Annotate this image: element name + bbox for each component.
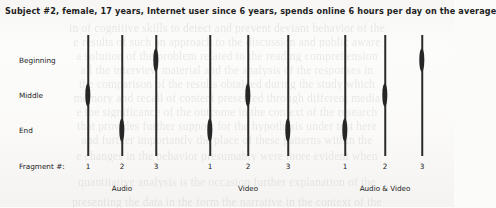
data-marker [153, 49, 158, 72]
fragment-number-label: 2 [246, 162, 251, 171]
group-label-video: Video [238, 184, 258, 193]
data-marker [245, 84, 250, 107]
y-axis-label-middle: Middle [19, 91, 43, 100]
data-marker [382, 84, 387, 107]
data-marker [85, 84, 90, 107]
fragment-number-label: 1 [343, 162, 348, 171]
group-label-audio-video: Audio & Video [360, 184, 411, 193]
data-marker [285, 119, 290, 142]
fragment-number-label: 2 [120, 162, 125, 171]
y-axis-label-beginning: Beginning [19, 56, 56, 65]
fragment-number-label: 3 [154, 162, 159, 171]
fragment-number-label: 3 [286, 162, 291, 171]
group-label-audio: Audio [112, 184, 132, 193]
y-axis-label-end: End [19, 126, 33, 135]
fragment-number-label: 2 [383, 162, 388, 171]
fragment-number-label: 1 [208, 162, 213, 171]
fragment-number-label: 1 [86, 162, 91, 171]
data-marker [419, 49, 424, 72]
data-marker [119, 119, 124, 142]
fragment-axis-caption: Fragment #: [19, 162, 65, 171]
data-marker [342, 119, 347, 142]
fragment-number-label: 3 [420, 162, 425, 171]
data-marker [207, 119, 212, 142]
